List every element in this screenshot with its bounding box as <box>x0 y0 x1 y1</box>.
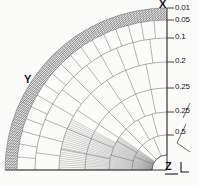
axis-label-x: X <box>159 0 166 10</box>
mesh-figure <box>0 0 198 185</box>
tick-label-0: 0.01 <box>175 4 190 12</box>
tick-label-3: 0.2 <box>175 57 186 65</box>
tick-label-4: 0.25 <box>175 83 190 91</box>
tick-label-6: 0.5 <box>175 128 186 136</box>
tick-label-2: 0.1 <box>175 33 186 41</box>
axis-label-y: Y <box>24 74 31 85</box>
axis-label-z: Z <box>165 161 172 172</box>
tick-label-1: 0.05 <box>175 16 190 24</box>
tick-label-5: 0.25 <box>175 107 190 115</box>
